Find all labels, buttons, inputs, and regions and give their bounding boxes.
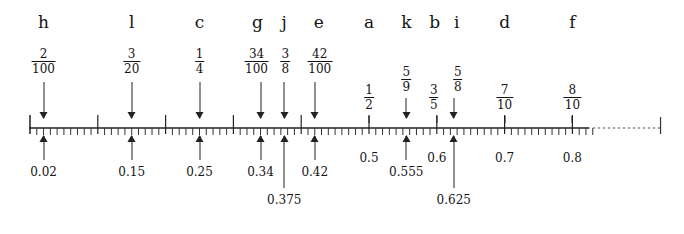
point-letter-e: e: [314, 14, 324, 31]
number-line-figure: 0.50.60.70.8h21000.02l3200.15c140.25g341…: [0, 0, 684, 234]
point-decimal-j: 0.375: [267, 194, 301, 206]
pointer-tick-a: [369, 116, 370, 123]
point-decimal-l: 0.15: [118, 166, 145, 178]
pointer-tick-b: [436, 116, 437, 123]
point-fraction-e: 42100: [307, 48, 332, 75]
pointer-arrow-down-e: [314, 82, 315, 118]
point-fraction-a: 12: [364, 84, 374, 111]
pointer-arrow-down-c: [199, 82, 200, 118]
point-fraction-h: 2100: [31, 48, 56, 75]
fraction-denominator: 100: [307, 63, 332, 75]
fraction-denominator: 100: [31, 63, 56, 75]
point-decimal-h: 0.02: [30, 166, 57, 178]
fraction-numerator: 7: [496, 84, 513, 96]
number-line-axis: [0, 0, 684, 234]
point-fraction-g: 34100: [244, 48, 269, 75]
point-fraction-d: 710: [496, 84, 513, 111]
pointer-arrow-up-g: [260, 136, 261, 160]
point-decimal-i: 0.625: [437, 194, 471, 206]
fraction-numerator: 3: [429, 84, 439, 96]
fraction-denominator: 100: [244, 63, 269, 75]
fraction-numerator: 5: [453, 66, 463, 78]
pointer-arrow-down-g: [260, 82, 261, 118]
point-decimal-k: 0.555: [389, 166, 423, 178]
point-decimal-c: 0.25: [186, 166, 213, 178]
point-fraction-k: 59: [401, 66, 411, 93]
point-fraction-i: 58: [453, 66, 463, 93]
point-letter-b: b: [429, 14, 440, 31]
point-letter-f: f: [569, 14, 575, 31]
point-letter-h: h: [38, 14, 49, 31]
fraction-denominator: 4: [195, 63, 205, 75]
fraction-denominator: 20: [123, 63, 140, 75]
pointer-arrow-down-l: [131, 82, 132, 118]
axis-tick-label-0.7: 0.7: [495, 152, 514, 164]
point-letter-i: i: [454, 14, 459, 31]
fraction-numerator: 2: [31, 48, 56, 60]
axis-tick-label-0.6: 0.6: [427, 152, 446, 164]
point-fraction-f: 810: [564, 84, 581, 111]
point-letter-k: k: [401, 14, 411, 31]
pointer-tick-f: [572, 116, 573, 123]
fraction-numerator: 5: [401, 66, 411, 78]
fraction-denominator: 10: [496, 99, 513, 111]
fraction-numerator: 42: [307, 48, 332, 60]
point-letter-c: c: [195, 14, 205, 31]
fraction-numerator: 3: [123, 48, 140, 60]
pointer-arrow-down-k: [406, 98, 407, 118]
pointer-arrow-up-j: [284, 136, 285, 188]
pointer-arrow-down-i: [453, 98, 454, 118]
fraction-denominator: 8: [453, 81, 463, 93]
fraction-numerator: 1: [195, 48, 205, 60]
point-letter-l: l: [129, 14, 134, 31]
axis-tick-label-0.5: 0.5: [359, 152, 378, 164]
point-letter-g: g: [252, 14, 263, 31]
fraction-numerator: 34: [244, 48, 269, 60]
point-letter-a: a: [364, 14, 374, 31]
fraction-numerator: 1: [364, 84, 374, 96]
pointer-arrow-up-e: [314, 136, 315, 160]
point-fraction-b: 35: [429, 84, 439, 111]
pointer-arrow-down-h: [43, 82, 44, 118]
axis-tick-label-0.8: 0.8: [563, 152, 582, 164]
fraction-numerator: 8: [564, 84, 581, 96]
pointer-arrow-up-h: [43, 136, 44, 160]
point-fraction-c: 14: [195, 48, 205, 75]
pointer-arrow-up-c: [199, 136, 200, 160]
point-fraction-l: 320: [123, 48, 140, 75]
fraction-denominator: 5: [429, 99, 439, 111]
fraction-numerator: 3: [280, 48, 290, 60]
point-letter-j: j: [282, 14, 287, 31]
pointer-arrow-up-k: [406, 136, 407, 160]
point-decimal-g: 0.34: [247, 166, 274, 178]
point-letter-d: d: [499, 14, 510, 31]
fraction-denominator: 8: [280, 63, 290, 75]
pointer-arrow-up-i: [453, 136, 454, 188]
pointer-arrow-up-l: [131, 136, 132, 160]
fraction-denominator: 9: [401, 81, 411, 93]
fraction-denominator: 10: [564, 99, 581, 111]
point-decimal-e: 0.42: [301, 166, 328, 178]
point-fraction-j: 38: [280, 48, 290, 75]
pointer-arrow-down-j: [284, 82, 285, 118]
fraction-denominator: 2: [364, 99, 374, 111]
pointer-tick-d: [504, 116, 505, 123]
